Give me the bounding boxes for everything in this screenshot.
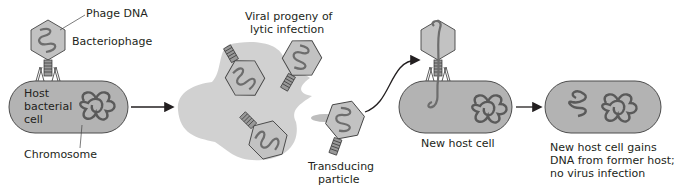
bacteriophage-label: Bacteriophage: [72, 35, 152, 48]
phage-dna-leader: [60, 15, 85, 30]
progeny-label-line2: lytic infection: [250, 23, 324, 36]
host-label-line1: Host: [24, 87, 49, 100]
chromosome-label: Chromosome: [24, 148, 97, 161]
bacteriophage: [31, 20, 65, 81]
transducing-particle: [317, 95, 368, 159]
new-host-label: New host cell: [421, 137, 495, 150]
progeny-label-line1: Viral progeny of: [245, 10, 332, 23]
result-label-line1: New host cell gains: [550, 141, 657, 154]
panel-4-result: [545, 81, 661, 133]
panel-2-lysis: [178, 32, 368, 166]
transducing-label-line2: particle: [318, 173, 360, 186]
result-label-line2: DNA from former host;: [550, 154, 675, 167]
transducing-label-line1: Transducing: [308, 160, 374, 173]
host-label-line2: bacterial: [24, 100, 72, 113]
host-label-line3: cell: [24, 113, 43, 126]
panel-3-new-host: [399, 20, 512, 133]
phage-dna-label: Phage DNA: [86, 7, 148, 20]
result-label-line3: no virus infection: [550, 167, 645, 180]
